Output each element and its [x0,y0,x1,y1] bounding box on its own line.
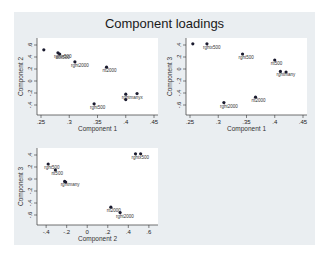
data-point [124,98,127,101]
y-tick-label: -.2 [27,90,33,96]
x-tick-label: .4 [123,119,129,125]
y-tick-label: 0 [176,67,182,70]
x-tick-label: .3 [216,119,222,125]
x-tick-label: .4 [272,119,278,125]
point-label: rght500 [44,165,60,170]
data-point [42,48,45,51]
point-label: rght2000 [116,214,134,219]
y-tick-label: .2 [176,55,182,60]
y-tick-label: .4 [27,55,33,60]
x-tick-label: .45 [299,119,308,125]
plot-area [37,38,158,115]
point-label: rtt500 [271,61,283,66]
point-label: rtt2000 [103,68,118,73]
y-tick-label: .4 [27,153,33,158]
y-tick-label: -.4 [27,200,33,206]
y-tick-label: -.6 [176,102,182,108]
y-axis-title: Component 2 [17,57,25,96]
y-tick-label: -.4 [176,90,182,96]
point-label: rghtx500 [203,45,221,50]
x-tick-label: .3 [67,119,73,125]
y-tick-label: .2 [27,67,33,72]
data-point [64,180,67,183]
data-point [135,92,138,95]
point-label: rtt500 [51,171,63,176]
point-label: rght2000 [220,104,238,109]
scatter-matrix: .25.3.35.4.45-.4-.20.2.4.6Component 1Com… [0,0,325,258]
x-axis-title: Component 2 [78,235,117,243]
data-point [284,70,287,73]
point-label: rtot500 [56,55,71,60]
y-tick-label: -.2 [176,78,182,84]
y-tick-label: -.4 [27,102,33,108]
point-label: rghtmany [61,182,81,187]
x-tick-label: .6 [146,229,152,235]
x-tick-label: .4 [126,229,132,235]
x-tick-label: -.4 [43,229,51,235]
x-axis-title: Component 1 [78,125,117,133]
y-axis-title: Component 3 [17,167,25,206]
point-label: rght2000 [71,63,89,68]
y-tick-label: 0 [27,177,33,180]
y-tick-label: .6 [27,43,33,48]
x-tick-label: .25 [37,119,46,125]
x-axis-title: Component 1 [227,125,266,133]
point-label: rtt2000 [252,98,267,103]
data-point [139,152,142,155]
point-label: rghtx500 [132,155,150,160]
x-tick-label: -.2 [63,229,71,235]
x-tick-label: .25 [186,119,195,125]
x-tick-label: .45 [150,119,159,125]
y-tick-label: -.6 [27,212,33,218]
y-tick-label: 0 [27,79,33,82]
point-label: rght500 [239,55,255,60]
y-axis-title: Component 3 [166,57,174,96]
y-tick-label: .2 [27,165,33,170]
y-tick-label: .4 [176,43,182,48]
y-tick-label: -.2 [27,188,33,194]
data-point [191,42,194,45]
point-label: rght500 [90,105,106,110]
